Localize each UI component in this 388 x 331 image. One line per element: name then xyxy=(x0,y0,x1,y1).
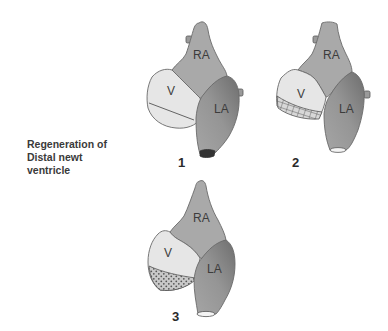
heart-stage-1: RA V LA 1 xyxy=(147,22,243,170)
label-v: V xyxy=(297,87,305,101)
label-la: LA xyxy=(339,102,354,116)
vessel-nub-icon xyxy=(364,91,370,98)
stage-number: 2 xyxy=(292,155,299,170)
vessel-opening xyxy=(197,311,215,316)
stage-number: 1 xyxy=(178,155,185,170)
amputated-tip xyxy=(200,150,215,158)
label-la: LA xyxy=(214,102,229,116)
heart-stage-3: RA V LA 3 xyxy=(148,181,235,324)
label-v: V xyxy=(167,84,175,98)
label-ra: RA xyxy=(323,48,340,62)
stage-number: 3 xyxy=(172,309,179,324)
label-v: V xyxy=(164,246,172,260)
label-ra: RA xyxy=(193,211,210,225)
label-la: LA xyxy=(207,262,222,276)
vessel-opening xyxy=(330,148,346,153)
label-ra: RA xyxy=(193,48,210,62)
heart-stage-2: RA V LA 2 xyxy=(277,22,370,170)
heart-diagrams: RA V LA 1 RA V LA 2 RA V LA 3 xyxy=(0,0,388,331)
